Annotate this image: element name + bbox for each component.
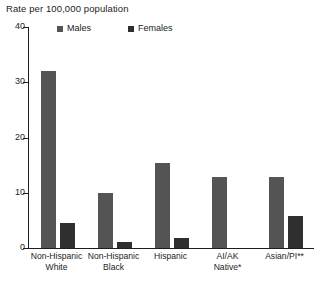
bar-females-4[interactable] [288, 216, 303, 248]
y-axis-tick-label: 10 [15, 187, 25, 197]
y-axis-tick-label: 40 [15, 21, 25, 31]
x-axis-label-3: AI/AK Native* [199, 251, 256, 273]
x-axis-label-4: Asian/PI** [256, 251, 313, 262]
x-axis-label-1: Non-Hispanic Black [85, 251, 142, 273]
x-axis-label-2: Hispanic [142, 251, 199, 262]
bar-males-0[interactable] [41, 71, 56, 248]
bar-series-container [29, 27, 314, 248]
bar-males-2[interactable] [155, 163, 170, 248]
x-axis-label-0: Non-Hispanic White [28, 251, 85, 273]
bar-males-4[interactable] [269, 177, 284, 248]
bar-females-2[interactable] [174, 238, 189, 248]
bar-males-3[interactable] [212, 177, 227, 248]
x-axis-line [28, 248, 314, 249]
y-axis-tick-label: 0 [20, 242, 25, 252]
bar-females-1[interactable] [117, 242, 132, 248]
x-axis-category-labels: Non-Hispanic WhiteNon-Hispanic BlackHisp… [28, 251, 314, 283]
bar-males-1[interactable] [98, 193, 113, 248]
plot-area: 010203040 [28, 27, 314, 248]
y-axis-tick-label: 30 [15, 76, 25, 86]
y-axis-tick-label: 20 [15, 132, 25, 142]
chart-axis-title: Rate per 100,000 population [6, 3, 129, 14]
bar-chart: Rate per 100,000 population Males Female… [0, 0, 320, 283]
bar-females-0[interactable] [60, 223, 75, 248]
